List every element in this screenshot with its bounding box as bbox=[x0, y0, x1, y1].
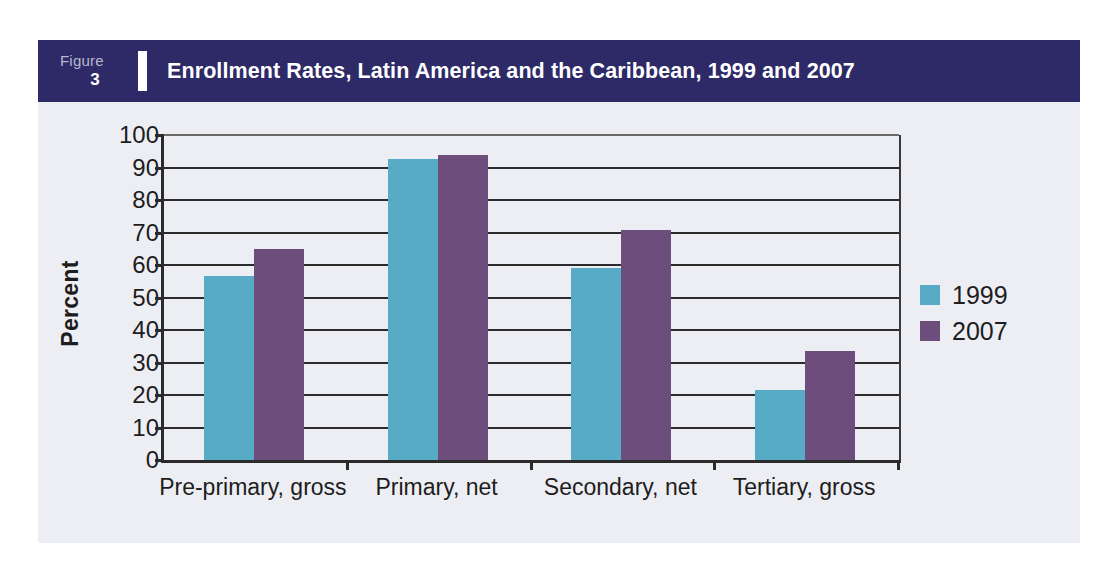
figure-header-bar: Figure 3 Enrollment Rates, Latin America… bbox=[38, 40, 1080, 102]
legend-item[interactable]: 2007 bbox=[920, 313, 1008, 349]
x-tick-label: Pre-primary, gross bbox=[159, 474, 346, 501]
x-tick-label: Secondary, net bbox=[544, 474, 697, 501]
chart-area: Percent 0102030405060708090100 Pre-prima… bbox=[38, 102, 1080, 543]
x-tick-label: Primary, net bbox=[375, 474, 497, 501]
legend-swatch bbox=[920, 321, 940, 341]
y-axis-tick-mark bbox=[155, 134, 164, 137]
x-axis-tick-mark bbox=[713, 460, 716, 470]
y-axis-tick-mark bbox=[155, 297, 164, 300]
x-tick-label: Tertiary, gross bbox=[733, 474, 876, 501]
x-axis-tick-labels: Pre-primary, grossPrimary, netSecondary,… bbox=[161, 474, 896, 514]
chart-legend: 19992007 bbox=[920, 277, 1008, 349]
bar bbox=[204, 276, 254, 460]
bar-group bbox=[532, 135, 716, 460]
bar bbox=[438, 155, 488, 461]
bar-group bbox=[348, 135, 532, 460]
y-tick-label: 100 bbox=[119, 121, 159, 149]
bar bbox=[571, 268, 621, 460]
bar bbox=[621, 230, 671, 460]
plot-area bbox=[161, 135, 901, 463]
y-axis-tick-mark bbox=[155, 199, 164, 202]
y-axis-tick-mark bbox=[155, 459, 164, 462]
figure-number: 3 bbox=[90, 71, 99, 89]
bar-group bbox=[715, 135, 899, 460]
legend-label: 1999 bbox=[952, 281, 1008, 310]
figure-title: Enrollment Rates, Latin America and the … bbox=[167, 59, 855, 84]
x-axis-tick-mark bbox=[530, 460, 533, 470]
bar bbox=[805, 351, 855, 460]
bars-layer bbox=[164, 135, 899, 460]
y-axis-tick-labels: 0102030405060708090100 bbox=[101, 135, 159, 460]
bar bbox=[388, 159, 438, 460]
y-axis-tick-mark bbox=[155, 362, 164, 365]
header-divider bbox=[138, 51, 147, 91]
bar bbox=[254, 249, 304, 460]
y-axis-tick-mark bbox=[155, 167, 164, 170]
y-axis-tick-mark bbox=[155, 394, 164, 397]
figure-root: Figure 3 Enrollment Rates, Latin America… bbox=[0, 0, 1093, 568]
y-axis-tick-mark bbox=[155, 232, 164, 235]
y-axis-tick-mark bbox=[155, 264, 164, 267]
figure-label: Figure bbox=[60, 53, 104, 69]
x-axis-tick-mark bbox=[346, 460, 349, 470]
legend-swatch bbox=[920, 285, 940, 305]
y-axis-tick-mark bbox=[155, 329, 164, 332]
x-axis-tick-mark bbox=[897, 460, 900, 470]
legend-item[interactable]: 1999 bbox=[920, 277, 1008, 313]
bar-group bbox=[164, 135, 348, 460]
bar bbox=[755, 390, 805, 460]
y-axis-title: Percent bbox=[57, 244, 84, 364]
y-axis-tick-mark bbox=[155, 427, 164, 430]
figure-number-block: Figure 3 bbox=[54, 53, 136, 89]
legend-label: 2007 bbox=[952, 317, 1008, 346]
